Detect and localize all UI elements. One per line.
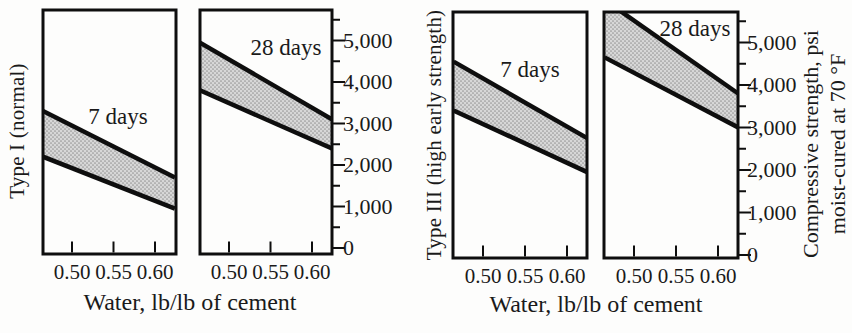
x-tick-label: 0.60 [132,262,178,282]
type-iii-group-label: Type III (high early strength) [422,10,447,261]
y-tick-label: 3,000 [343,112,393,136]
y-tick-label: 0 [343,236,354,260]
panel3-age-annotation: 7 days [500,57,559,83]
x-tick-label: 0.60 [289,262,335,282]
concrete-strength-figure: Type I (normal) Type III (high early str… [0,0,852,333]
x-tick-label: 0.55 [653,266,699,286]
y-tick-label: 3,000 [747,116,797,140]
y-tick-label: 2,000 [747,158,797,182]
x-tick-label: 0.50 [460,266,506,286]
x-tick-label: 0.55 [91,262,137,282]
y-tick-label: 5,000 [747,31,797,55]
panel4-age-annotation: 28 days [660,16,731,42]
y-tick-label: 4,000 [343,70,393,94]
type-i-group-label: Type I (normal) [5,63,30,199]
x-axis-title-left-group: Water, lb/lb of cement [83,289,296,316]
x-tick-label: 0.50 [611,266,657,286]
x-axis-title-right-group: Water, lb/lb of cement [489,291,702,318]
y-tick-label: 1,000 [343,195,393,219]
y-tick-label: 0 [747,243,758,267]
y-axis-title-line2: moist-cured at 70 °F [824,30,851,258]
x-tick-label: 0.60 [695,266,741,286]
y-axis-title-line1: Compressive strength, psi [797,30,824,258]
y-tick-label: 1,000 [747,201,797,225]
x-tick-label: 0.55 [502,266,548,286]
y-tick-label: 2,000 [343,153,393,177]
panel1-age-annotation: 7 days [88,104,147,130]
panel2-age-annotation: 28 days [251,35,322,61]
x-tick-label: 0.55 [248,262,294,282]
x-tick-label: 0.60 [544,266,590,286]
x-tick-label: 0.50 [206,262,252,282]
y-tick-label: 5,000 [343,29,393,53]
y-tick-label: 4,000 [747,73,797,97]
y-axis-title: Compressive strength, psi moist-cured at… [797,30,851,258]
x-tick-label: 0.50 [49,262,95,282]
